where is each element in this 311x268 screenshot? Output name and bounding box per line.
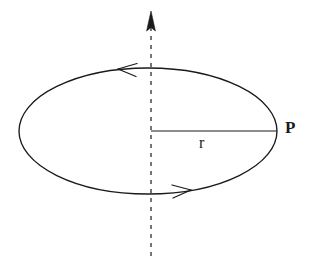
direction-arrow-top — [118, 64, 137, 77]
figure-canvas: P r — [0, 0, 311, 268]
diagram-svg — [0, 0, 311, 268]
point-label-p: P — [285, 119, 295, 136]
radius-label-r: r — [199, 135, 204, 151]
